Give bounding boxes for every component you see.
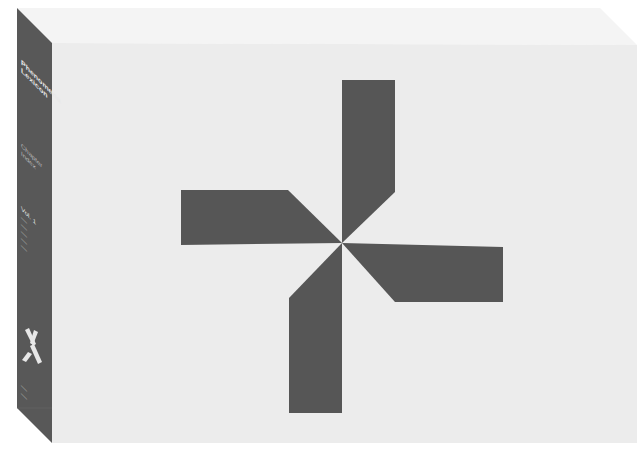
- box-illustration: [0, 0, 639, 456]
- box-top-face: [17, 8, 637, 45]
